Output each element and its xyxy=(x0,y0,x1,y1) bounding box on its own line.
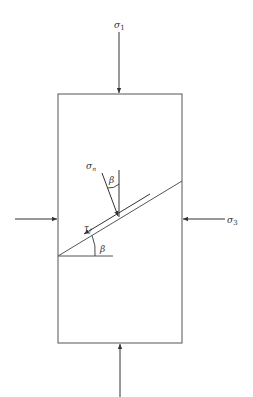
sigma3-label: σ3 xyxy=(227,215,238,227)
diagram-canvas: σ1 σ3 σn τf β β xyxy=(0,0,253,397)
sigma-n-label: σn xyxy=(86,161,96,172)
beta-top-label: β xyxy=(108,175,114,185)
beta-bottom-arc xyxy=(92,236,95,257)
failure-plane-line xyxy=(58,181,182,256)
beta-bottom-label: β xyxy=(99,244,105,254)
sigma1-label: σ1 xyxy=(114,20,125,32)
